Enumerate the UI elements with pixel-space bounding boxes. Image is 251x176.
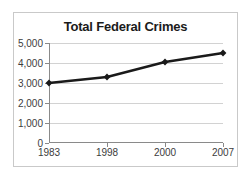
plot-area: 01,0002,0003,0004,0005,000 1983199820002… bbox=[49, 43, 223, 143]
x-tick-label: 2000 bbox=[154, 147, 176, 158]
data-point-marker bbox=[46, 80, 53, 87]
y-tick-label: 4,000 bbox=[18, 58, 43, 69]
y-tick-label: 3,000 bbox=[18, 78, 43, 89]
chart-figure: Total Federal Crimes 01,0002,0003,0004,0… bbox=[0, 0, 251, 176]
y-tick-label: 5,000 bbox=[18, 38, 43, 49]
x-tick-label: 1998 bbox=[96, 147, 118, 158]
data-point-marker bbox=[104, 74, 111, 81]
y-tick-label: 1,000 bbox=[18, 118, 43, 129]
y-tick-mark bbox=[45, 143, 49, 144]
data-line bbox=[49, 53, 223, 83]
data-point-marker bbox=[162, 59, 169, 66]
chart-title: Total Federal Crimes bbox=[14, 19, 237, 34]
x-tick-label: 1983 bbox=[38, 147, 60, 158]
chart-frame: Total Federal Crimes 01,0002,0003,0004,0… bbox=[13, 12, 238, 167]
data-point-marker bbox=[220, 50, 227, 57]
x-tick-label: 2007 bbox=[212, 147, 234, 158]
y-tick-label: 2,000 bbox=[18, 98, 43, 109]
series-line bbox=[49, 43, 223, 143]
